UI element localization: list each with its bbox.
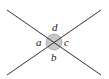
label-a: a <box>36 36 42 48</box>
label-b: b <box>51 51 57 63</box>
label-d: d <box>52 21 58 33</box>
label-c: c <box>64 36 69 48</box>
intersecting-lines-diagram: d a c b <box>0 0 109 79</box>
